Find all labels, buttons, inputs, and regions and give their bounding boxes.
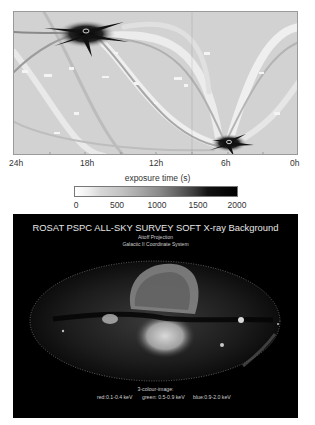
colorbar-title: exposure time (s) bbox=[0, 173, 315, 183]
x-axis-label-6h: 6h bbox=[221, 158, 230, 168]
colorbar-tick-0: 0 bbox=[74, 200, 79, 210]
exposure-colorbar bbox=[74, 186, 238, 197]
exposure-map bbox=[13, 11, 298, 155]
legend-green-band: green: 0.5-0.9 keV bbox=[142, 394, 185, 400]
x-axis-label-0h: 0h bbox=[290, 158, 299, 168]
legend-title: 3-colour-image: bbox=[13, 386, 298, 392]
legend-blue-band: blue:0.9-2.0 keV bbox=[193, 394, 231, 400]
colorbar-tick-1000: 1000 bbox=[148, 200, 167, 210]
colorbar-tick-2000: 2000 bbox=[228, 200, 247, 210]
xray-background-panel: ROSAT PSPC ALL-SKY SURVEY SOFT X-ray Bac… bbox=[13, 214, 298, 418]
colorbar-tick-1500: 1500 bbox=[189, 200, 208, 210]
exposure-map-image bbox=[14, 12, 298, 155]
colorbar-tick-500: 500 bbox=[110, 200, 124, 210]
x-axis-label-24h: 24h bbox=[9, 158, 23, 168]
x-axis-label-18h: 18h bbox=[80, 158, 94, 168]
legend-red-band: red:0.1-0.4 keV bbox=[97, 394, 132, 400]
x-axis-label-12h: 12h bbox=[149, 158, 163, 168]
